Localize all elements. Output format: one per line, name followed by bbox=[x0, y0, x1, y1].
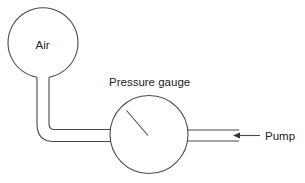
air-label: Air bbox=[36, 39, 50, 51]
gauge-label: Pressure gauge bbox=[109, 76, 190, 88]
gauge-dial bbox=[110, 96, 188, 174]
pump-label: Pump bbox=[265, 130, 295, 142]
gauge-needle bbox=[127, 111, 149, 136]
air-reservoir: Air bbox=[8, 8, 78, 77]
pump-inlet-pipe bbox=[188, 130, 240, 141]
arrow-left-icon bbox=[233, 133, 240, 139]
connecting-pipe bbox=[37, 77, 111, 141]
flow-arrow: Pump bbox=[233, 130, 295, 142]
pressure-system-diagram: Air Pressure gauge Pump bbox=[0, 0, 305, 183]
pipe-outer-wall bbox=[37, 77, 111, 141]
pipe-inner-wall bbox=[49, 77, 111, 129]
pressure-gauge: Pressure gauge bbox=[109, 76, 190, 174]
